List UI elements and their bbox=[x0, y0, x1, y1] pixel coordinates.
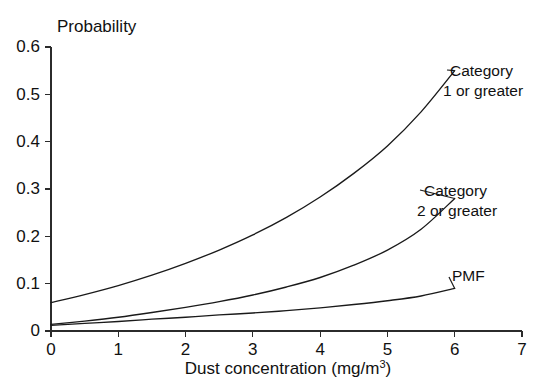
series-annotations: Category 1 or greater Category 2 or grea… bbox=[417, 62, 523, 284]
chart-figure: 00.10.20.30.40.50.6 01234567 Probability… bbox=[0, 0, 534, 381]
y-axis-title: Probability bbox=[57, 17, 137, 36]
annotation-category-1-line1: Category bbox=[450, 62, 513, 79]
y-axis-ticks bbox=[45, 47, 51, 331]
x-tick-label-3: 3 bbox=[248, 340, 257, 359]
annotation-category-1-line2: 1 or greater bbox=[443, 82, 523, 99]
x-tick-label-0: 0 bbox=[46, 340, 55, 359]
x-tick-label-7: 7 bbox=[517, 340, 526, 359]
curve-pmf bbox=[51, 288, 455, 325]
curve-category-2-or-greater bbox=[51, 198, 455, 324]
y-tick-label-5: 0.5 bbox=[16, 85, 40, 104]
annotation-leader-lines bbox=[420, 70, 455, 288]
y-tick-label-4: 0.4 bbox=[16, 132, 40, 151]
annotation-category-2-line1: Category bbox=[424, 182, 487, 199]
y-tick-label-2: 0.2 bbox=[16, 227, 40, 246]
x-axis-ticks bbox=[51, 331, 522, 337]
annotation-category-2-line2: 2 or greater bbox=[417, 202, 497, 219]
x-tick-label-1: 1 bbox=[114, 340, 123, 359]
curve-category-1-or-greater bbox=[51, 71, 455, 303]
x-tick-label-6: 6 bbox=[450, 340, 459, 359]
annotation-pmf: PMF bbox=[452, 267, 485, 284]
x-axis-tick-labels: 01234567 bbox=[46, 340, 526, 359]
x-axis-title-tail: ) bbox=[386, 359, 392, 378]
x-axis-title-main: Dust concentration (mg/m bbox=[185, 359, 380, 378]
probability-vs-dust-concentration-chart: 00.10.20.30.40.50.6 01234567 Probability… bbox=[0, 0, 534, 381]
y-axis-tick-labels: 00.10.20.30.40.50.6 bbox=[16, 37, 40, 340]
x-tick-label-2: 2 bbox=[181, 340, 190, 359]
x-axis-title: Dust concentration (mg/m3) bbox=[185, 358, 391, 378]
data-curves-group bbox=[51, 71, 455, 326]
y-tick-label-1: 0.1 bbox=[16, 274, 40, 293]
y-tick-label-3: 0.3 bbox=[16, 179, 40, 198]
y-tick-label-6: 0.6 bbox=[16, 37, 40, 56]
x-tick-label-5: 5 bbox=[383, 340, 392, 359]
y-tick-label-0: 0 bbox=[31, 321, 40, 340]
x-tick-label-4: 4 bbox=[315, 340, 324, 359]
